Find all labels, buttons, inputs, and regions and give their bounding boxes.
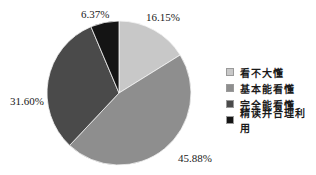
- legend-swatch-icon: [226, 116, 234, 124]
- legend-item-jibennengkandong: 基本能看懂: [226, 80, 316, 96]
- legend-swatch-icon: [226, 100, 234, 108]
- slice-label-kanbudadong: 16.15%: [146, 11, 180, 23]
- legend-label: 基本能看懂: [240, 81, 295, 96]
- pie-slices: [47, 21, 191, 165]
- legend-item-kanbudadong: 看不大懂: [226, 64, 316, 80]
- legend: 看不大懂 基本能看懂 完全能看懂 精读并合理利用: [226, 64, 316, 128]
- slice-label-jingdu: 6.37%: [81, 8, 109, 20]
- legend-swatch-icon: [226, 84, 234, 92]
- legend-item-jingdubingheliliyong: 精读并合理利用: [226, 112, 316, 128]
- slice-label-wanquannengkandong: 31.60%: [10, 95, 44, 107]
- legend-label: 精读并合理利用: [240, 105, 316, 135]
- slice-label-jibennengkandong: 45.88%: [178, 152, 212, 164]
- legend-label: 看不大懂: [240, 65, 284, 80]
- legend-swatch-icon: [226, 68, 234, 76]
